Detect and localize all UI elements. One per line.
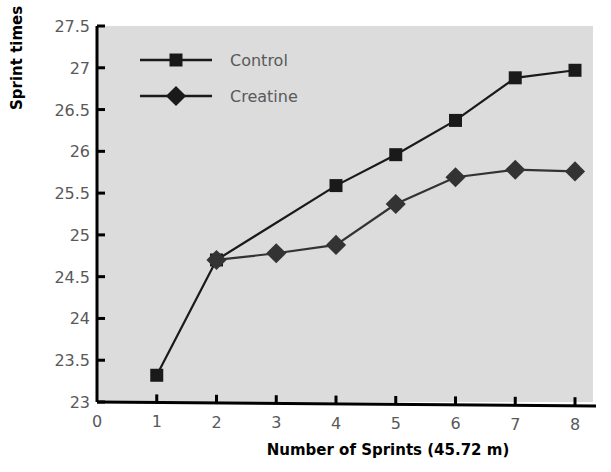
y-tick-label: 26 — [70, 142, 90, 161]
x-tick-label: 6 — [450, 414, 460, 433]
y-tick-label: 23 — [70, 393, 90, 412]
x-axis-tick-labels: 012345678 — [92, 412, 580, 434]
data-point-control — [330, 179, 343, 192]
y-tick-label: 27.5 — [54, 17, 90, 36]
x-tick-label: 4 — [331, 414, 341, 433]
x-tick-label: 7 — [510, 415, 520, 434]
x-tick-label: 0 — [92, 412, 102, 431]
chart-figure: 2323.52424.52525.52626.52727.5 012345678… — [0, 0, 611, 472]
data-point-control — [509, 71, 522, 84]
y-axis-tick-labels: 2323.52424.52525.52626.52727.5 — [54, 17, 90, 412]
data-point-control — [150, 369, 163, 382]
y-tick-label: 26.5 — [54, 101, 90, 120]
x-tick-label: 1 — [152, 412, 162, 431]
legend-marker-control — [170, 54, 183, 67]
y-tick-label: 24 — [70, 309, 90, 328]
data-point-control — [569, 64, 582, 77]
y-tick-label: 25 — [70, 226, 90, 245]
y-tick-label: 23.5 — [54, 351, 90, 370]
y-axis-title: Sprint times (s) — [8, 0, 26, 110]
legend-label-control: Control — [230, 51, 288, 70]
x-tick-label: 2 — [211, 413, 221, 432]
x-axis-line — [97, 402, 596, 406]
x-tick-label: 5 — [391, 414, 401, 433]
data-point-control — [389, 148, 402, 161]
y-tick-label: 24.5 — [54, 268, 90, 287]
legend-label-creatine: Creatine — [230, 87, 298, 106]
line-chart: 2323.52424.52525.52626.52727.5 012345678… — [0, 0, 611, 472]
y-tick-label: 25.5 — [54, 184, 90, 203]
x-tick-label: 3 — [271, 413, 281, 432]
data-point-control — [449, 114, 462, 127]
x-tick-label: 8 — [570, 415, 580, 434]
y-tick-label: 27 — [70, 59, 90, 78]
x-axis-title: Number of Sprints (45.72 m) — [267, 441, 510, 459]
